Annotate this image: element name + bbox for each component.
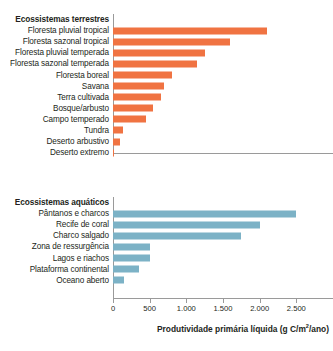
aquatic-bar-rows: Ecossistemas aquáticosPântanos e charcos…: [0, 183, 333, 286]
bar-track: [113, 58, 333, 69]
aquatic-ecosystems-chart: Ecossistemas aquáticosPântanos e charcos…: [0, 183, 333, 351]
bar-track: [113, 36, 333, 47]
bar-track: [113, 136, 333, 147]
bar-category-label: Plataforma continental: [0, 265, 113, 274]
bar: [113, 232, 241, 239]
bar: [113, 138, 120, 145]
bar: [113, 116, 146, 123]
bar-category-label: Campo temperado: [0, 115, 113, 124]
bar: [113, 27, 267, 34]
bar-category-label: Pântanos e charcos: [0, 209, 113, 218]
cropped-caption-strip: [0, 344, 333, 351]
group-heading-spacer: [113, 14, 333, 25]
bar-row: Campo temperado: [0, 114, 333, 125]
bar-track: [113, 230, 333, 241]
terrestrial-bar-rows: Ecossistemas terrestresFloresta pluvial …: [0, 0, 333, 158]
bar-row: Floresta boreal: [0, 69, 333, 80]
bar-category-label: Floresta sazonal tropical: [0, 37, 113, 46]
bar-row: Lagos e riachos: [0, 252, 333, 263]
bar-row: Terra cultivada: [0, 92, 333, 103]
bar-category-label: Charco salgado: [0, 231, 113, 240]
bar-track: [113, 147, 333, 158]
x-axis-tick-label: 0: [111, 304, 115, 313]
axis-title-superscript: 2: [306, 323, 309, 329]
x-axis-tick: [186, 299, 187, 303]
bar: [113, 60, 197, 67]
bar-category-label: Deserto extremo: [0, 148, 113, 157]
bar-row: Tundra: [0, 125, 333, 136]
x-axis-tick-labels: 05001.0001.5002.0002.500: [113, 304, 333, 315]
bar-category-label: Oceano aberto: [0, 276, 113, 285]
bar-row: Zona de ressurgência: [0, 241, 333, 252]
bar-track: [113, 92, 333, 103]
bar-category-label: Deserto arbustivo: [0, 137, 113, 146]
bar-row: Floresta sazonal temperada: [0, 58, 333, 69]
bar: [113, 105, 153, 112]
bar-track: [113, 47, 333, 58]
bar: [113, 49, 205, 56]
bar-track: [113, 114, 333, 125]
x-axis-tick-label: 1.000: [177, 304, 196, 313]
x-axis-tick-label: 1.500: [213, 304, 232, 313]
x-axis-tick: [150, 299, 151, 303]
bar: [113, 94, 161, 101]
x-axis-ticks: [113, 299, 333, 303]
bar-category-label: Zona de ressurgência: [0, 242, 113, 251]
aquatic-group-heading: Ecossistemas aquáticos: [0, 197, 333, 208]
x-axis-tick: [296, 299, 297, 303]
bar-track: [113, 264, 333, 275]
primary-productivity-figure: Ecossistemas terrestresFloresta pluvial …: [0, 0, 333, 351]
x-axis-tick-label: 500: [143, 304, 156, 313]
bar-row: Deserto arbustivo: [0, 136, 333, 147]
bar-row: Floresta pluvial tropical: [0, 25, 333, 36]
bar-row: Oceano aberto: [0, 275, 333, 286]
terrestrial-ecosystems-chart: Ecossistemas terrestresFloresta pluvial …: [0, 0, 333, 176]
bar-category-label: Recife de coral: [0, 220, 113, 229]
bar: [113, 243, 150, 250]
bar: [113, 127, 123, 134]
bar-track: [113, 208, 333, 219]
bar-row: Bosque/arbusto: [0, 103, 333, 114]
bar-category-label: Terra cultivada: [0, 93, 113, 102]
group-heading-label: Ecossistemas terrestres: [0, 15, 113, 24]
bar-category-label: Savana: [0, 82, 113, 91]
x-axis-tick: [260, 299, 261, 303]
bar-category-label: Floresta pluvial temperada: [0, 48, 113, 57]
bar-row: Pântanos e charcos: [0, 208, 333, 219]
group-heading-label: Ecossistemas aquáticos: [0, 198, 113, 207]
bar-track: [113, 81, 333, 92]
bar-track: [113, 125, 333, 136]
x-axis-tick-label: 2.000: [250, 304, 269, 313]
bar: [113, 255, 150, 262]
bar: [113, 210, 296, 217]
bar: [113, 221, 260, 228]
terrestrial-group-heading: Ecossistemas terrestres: [0, 14, 333, 25]
bar-track: [113, 219, 333, 230]
bar: [113, 72, 172, 79]
group-heading-spacer: [113, 197, 333, 208]
bar-category-label: Floresta sazonal temperada: [0, 59, 113, 68]
bar-track: [113, 275, 333, 286]
bar-category-label: Bosque/arbusto: [0, 104, 113, 113]
bar-category-label: Floresta boreal: [0, 71, 113, 80]
bar-track: [113, 103, 333, 114]
bar-track: [113, 69, 333, 80]
bar-track: [113, 252, 333, 263]
bar-row: Plataforma continental: [0, 264, 333, 275]
x-axis-title: Produtividade primária líquida (g C/m2/a…: [0, 323, 333, 334]
bar-track: [113, 241, 333, 252]
bar-row: Floresta pluvial temperada: [0, 47, 333, 58]
bar-row: Recife de coral: [0, 219, 333, 230]
bar: [113, 83, 164, 90]
bar: [113, 38, 230, 45]
bar-category-label: Floresta pluvial tropical: [0, 26, 113, 35]
x-axis-tick-label: 2.500: [287, 304, 306, 313]
bar-category-label: Tundra: [0, 126, 113, 135]
bar-category-label: Lagos e riachos: [0, 254, 113, 263]
bar-row: Charco salgado: [0, 230, 333, 241]
bar-track: [113, 25, 333, 36]
bar-row: Floresta sazonal tropical: [0, 36, 333, 47]
x-axis-tick: [223, 299, 224, 303]
bar-row: Deserto extremo: [0, 147, 333, 158]
bar: [113, 149, 114, 156]
